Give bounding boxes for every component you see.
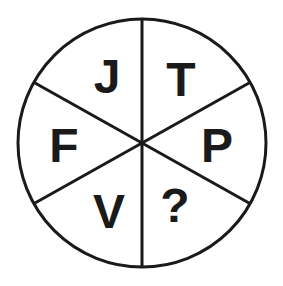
sector-right-letter: P: [201, 119, 233, 172]
sector-bottom-right-question: ?: [160, 179, 189, 232]
sector-top-left-letter: J: [94, 50, 121, 103]
sector-top-right-letter: T: [166, 53, 195, 106]
sector-left-letter: F: [49, 119, 78, 172]
sector-bottom-left-letter: V: [93, 185, 125, 238]
letter-wheel-diagram: J T P ? V F: [0, 0, 283, 286]
